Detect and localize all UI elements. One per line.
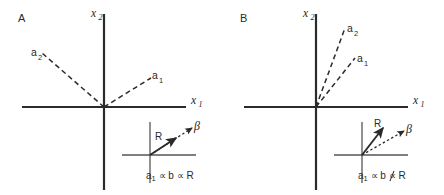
panel-a-inset-vector-r (150, 138, 176, 155)
panel-b: B x 1 x 2 a 2 a (222, 0, 444, 195)
panel-b-vector-a2 (316, 28, 345, 107)
panel-a-caption-rel1: ∝ (159, 170, 166, 181)
panel-b-vector-a1-sub: 1 (364, 59, 368, 68)
panel-b-inset-r-label: R (374, 118, 381, 129)
panel-b-inset-vector-r (362, 128, 383, 155)
panel-a-vector-a1-sub: 1 (159, 76, 163, 85)
figure-container: A x 1 x 2 a 2 a (0, 0, 444, 195)
panel-a-y-axis-label: x (90, 7, 97, 19)
panel-b-vector-a1-label: a (357, 52, 363, 64)
panel-a-inset-r-label: R (155, 131, 162, 142)
panel-a-caption-mid: b (168, 170, 174, 181)
panel-a-x-axis-label: x (190, 94, 197, 106)
panel-a-x-axis-sub: 1 (199, 100, 203, 109)
panel-a-vector-a1-label: a (152, 69, 158, 81)
panel-a-caption-lead-sub: 1 (152, 174, 156, 183)
panel-b-y-axis-sub: 2 (311, 13, 315, 22)
panel-b-caption-lead-sub: 1 (364, 174, 368, 183)
panel-a-vector-a2-label: a (31, 46, 37, 58)
panel-a-inset-beta-label: β (193, 119, 200, 133)
panel-b-caption-mid: b (380, 170, 386, 181)
panel-b-x-axis-label: x (412, 94, 419, 106)
panel-a-vector-a2-sub: 2 (38, 53, 42, 62)
panel-b-caption: a1 ∝ b ∝ R (358, 171, 406, 183)
panel-b-caption-tail: R (398, 170, 405, 181)
panel-b-vector-a2-label: a (347, 22, 353, 34)
panel-a-caption: a1 ∝ b ∝ R (146, 171, 194, 183)
panel-b-vector-a1 (316, 58, 355, 107)
panel-a-vector-a1 (104, 78, 151, 107)
panel-a-caption-tail: R (186, 170, 193, 181)
panel-a-plot: x 1 x 2 a 2 a 1 β R (0, 0, 222, 195)
panel-a-vector-a2 (42, 53, 104, 107)
panel-b-caption-rel1: ∝ (371, 170, 378, 181)
panel-a-caption-rel2: ∝ (177, 170, 184, 181)
panel-b-x-axis-sub: 1 (421, 100, 425, 109)
panel-a: A x 1 x 2 a 2 a (0, 0, 222, 195)
panel-b-plot: x 1 x 2 a 2 a 1 β R (222, 0, 444, 195)
panel-b-inset-beta-label: β (405, 122, 412, 136)
panel-b-y-axis-label: x (302, 7, 309, 19)
panel-b-inset-vector-beta (362, 131, 404, 155)
panel-b-vector-a2-sub: 2 (354, 29, 358, 38)
panel-b-caption-rel2-not-proportional: ∝ (389, 171, 396, 181)
panel-a-y-axis-sub: 2 (99, 13, 103, 22)
